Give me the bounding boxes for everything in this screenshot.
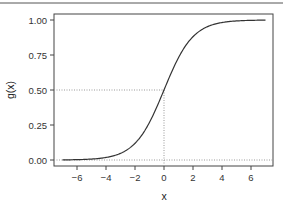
x-axis: −6−4−20246 — [72, 166, 254, 183]
x-axis-title: x — [161, 190, 167, 202]
y-tick-label: 0.75 — [29, 50, 48, 61]
y-tick-label: 1.00 — [29, 15, 48, 26]
x-tick-label: −6 — [72, 172, 83, 183]
y-tick-label: 0.00 — [29, 155, 48, 166]
y-axis: 0.000.250.500.751.00 — [29, 15, 55, 166]
x-tick-label: 2 — [190, 172, 195, 183]
y-tick-label: 0.25 — [29, 120, 48, 131]
x-tick-label: −2 — [130, 172, 141, 183]
sigmoid-curve — [63, 20, 266, 160]
y-axis-title: g(x) — [4, 81, 16, 99]
sigmoid-chart: 0.000.250.500.751.00 −6−4−20246 x g(x) — [0, 0, 283, 211]
reference-lines — [54, 90, 273, 166]
y-tick-label: 0.50 — [29, 85, 48, 96]
x-tick-label: −4 — [101, 172, 112, 183]
x-tick-label: 6 — [248, 172, 253, 183]
x-tick-label: 4 — [219, 172, 224, 183]
x-tick-label: 0 — [161, 172, 166, 183]
